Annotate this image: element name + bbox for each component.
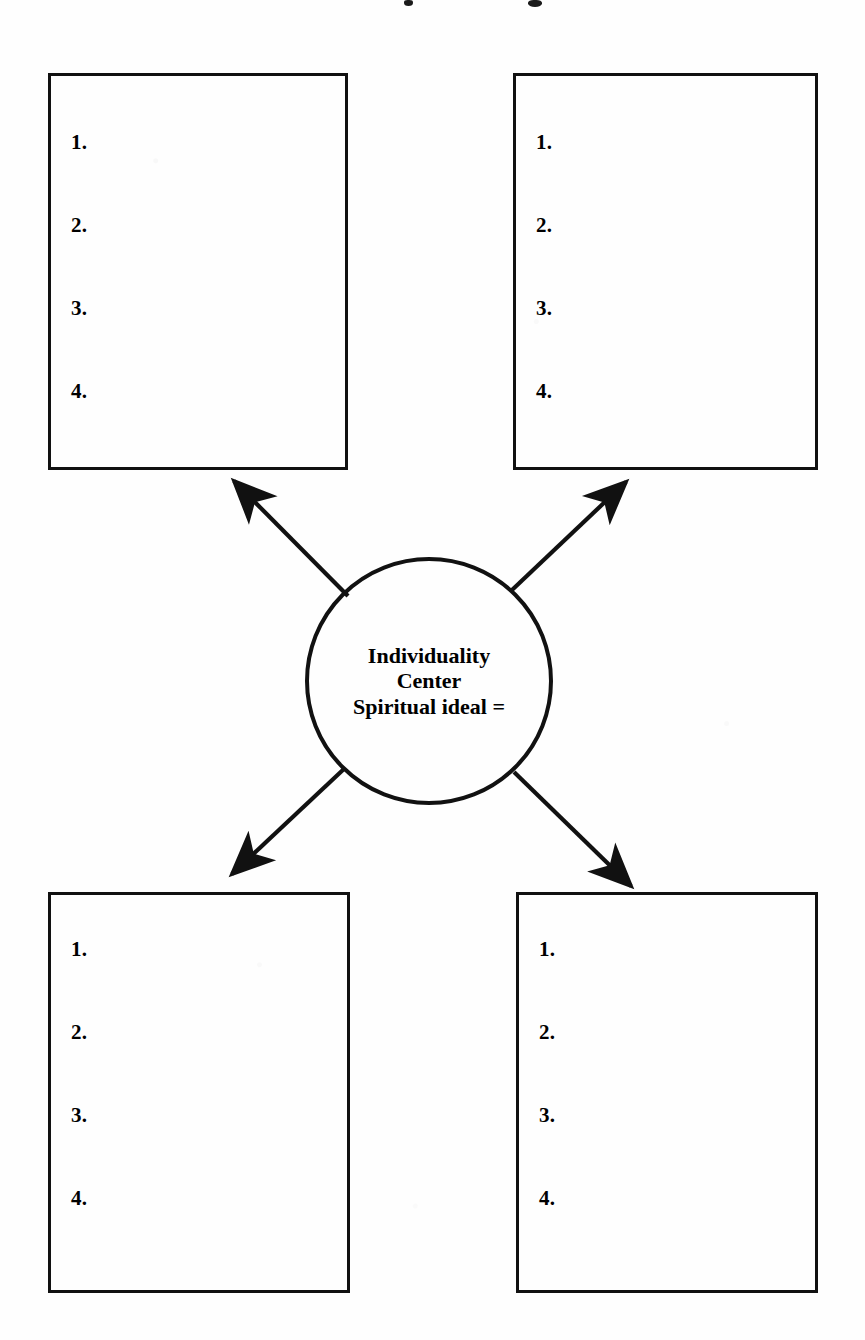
title-descender-fragment-right: [528, 0, 542, 7]
list-item: 1.: [71, 132, 87, 215]
title-descender-fragment-left: [404, 0, 413, 6]
list-item: 2.: [71, 215, 87, 298]
list-item: 3.: [539, 1105, 555, 1188]
numbered-list: 1. 2. 3. 4.: [71, 132, 87, 464]
list-item: 4.: [71, 1188, 87, 1271]
list-item: 2.: [539, 1022, 555, 1105]
center-node-line-1: Individuality: [368, 643, 490, 668]
list-item: 1.: [536, 132, 552, 215]
quadrant-box-top-left[interactable]: 1. 2. 3. 4.: [48, 73, 348, 470]
center-node-line-2: Center: [397, 668, 462, 693]
list-item: 4.: [536, 381, 552, 464]
list-item: 3.: [536, 298, 552, 381]
list-item: 1.: [71, 939, 87, 1022]
quadrant-box-bottom-left[interactable]: 1. 2. 3. 4.: [48, 892, 350, 1293]
numbered-list: 1. 2. 3. 4.: [71, 939, 87, 1271]
quadrant-box-bottom-right[interactable]: 1. 2. 3. 4.: [516, 892, 818, 1293]
center-node-circle[interactable]: Individuality Center Spiritual ideal =: [305, 557, 553, 805]
list-item: 2.: [71, 1022, 87, 1105]
numbered-list: 1. 2. 3. 4.: [536, 132, 552, 464]
quadrant-box-top-right[interactable]: 1. 2. 3. 4.: [513, 73, 818, 470]
list-item: 4.: [539, 1188, 555, 1271]
list-item: 1.: [539, 939, 555, 1022]
list-item: 3.: [71, 298, 87, 381]
numbered-list: 1. 2. 3. 4.: [539, 939, 555, 1271]
center-node-line-3: Spiritual ideal =: [353, 694, 505, 719]
list-item: 4.: [71, 381, 87, 464]
list-item: 2.: [536, 215, 552, 298]
list-item: 3.: [71, 1105, 87, 1188]
